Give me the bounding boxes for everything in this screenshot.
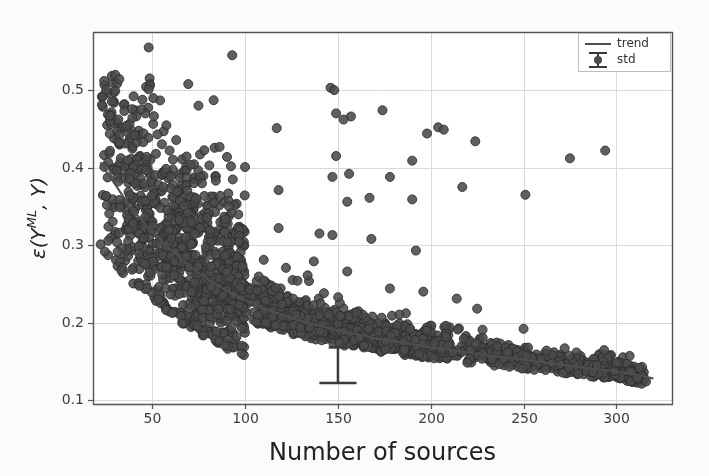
scatter-figure bbox=[0, 0, 709, 476]
scatter-plot-canvas bbox=[0, 0, 709, 476]
